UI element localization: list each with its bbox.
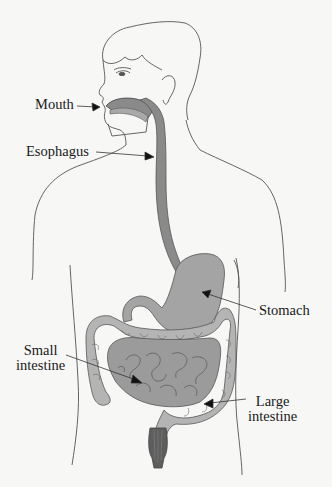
small-intestine-label: Small intestine — [16, 343, 65, 373]
large-intestine-label-line2: intestine — [248, 409, 297, 424]
large-intestine-label-line1: Large — [248, 394, 297, 409]
digestive-system-diagram: Mouth Esophagus Stomach Small intestine … — [0, 0, 332, 487]
mouth-label: Mouth — [35, 97, 74, 112]
small-intestine-label-line1: Small — [16, 343, 65, 358]
esophagus-label: Esophagus — [26, 144, 89, 159]
small-intestine-label-line2: intestine — [16, 358, 65, 373]
stomach-label: Stomach — [259, 303, 310, 318]
small-intestine-shape — [107, 338, 220, 407]
large-intestine-label: Large intestine — [248, 394, 297, 424]
